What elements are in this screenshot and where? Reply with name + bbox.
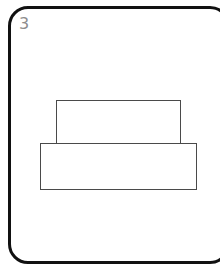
lower-rectangle-shape [40, 143, 197, 190]
upper-rectangle-shape [56, 100, 181, 144]
panel-canvas: 3 [0, 0, 220, 272]
figure-group [0, 0, 220, 272]
